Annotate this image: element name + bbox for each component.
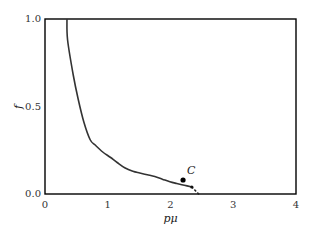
y-axis-label: f	[12, 103, 25, 110]
chart: C 1.0 0.5 0.0 0 1 2 3 4 pμ f	[0, 0, 314, 229]
plot-frame	[45, 19, 296, 194]
x-tick-1: 1	[105, 199, 111, 210]
point-c-label: C	[187, 164, 196, 177]
x-tick-4: 4	[293, 199, 299, 210]
x-tick-3: 3	[230, 199, 236, 210]
x-tick-0: 0	[42, 199, 48, 210]
x-tick-2: 2	[167, 199, 173, 210]
point-c-marker	[180, 177, 185, 182]
f-curve	[67, 19, 192, 187]
x-axis-label: pμ	[163, 212, 177, 225]
y-tick-1-0: 1.0	[25, 13, 41, 24]
y-tick-0-0: 0.0	[25, 188, 41, 199]
curve-end-marker	[190, 185, 193, 188]
y-tick-0-5: 0.5	[25, 101, 41, 112]
